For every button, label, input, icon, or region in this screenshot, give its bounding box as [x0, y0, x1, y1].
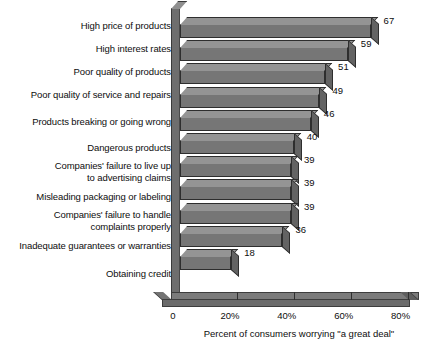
x-axis-tick	[351, 292, 352, 300]
plot-area: 6759514946403939393618 020%40%60%80% Per…	[171, 8, 427, 300]
bar-top-face	[180, 17, 378, 25]
bar-chart: High price of products High interest rat…	[0, 0, 439, 344]
category-label: High price of products	[81, 20, 171, 32]
bar-value-label: 51	[338, 61, 349, 72]
x-axis-tick	[294, 292, 295, 300]
x-axis-tick-label: 20%	[220, 310, 239, 321]
category-label: High interest rates	[96, 43, 171, 55]
bar-end-cap	[348, 40, 356, 68]
bar	[180, 110, 311, 124]
bar	[180, 87, 319, 101]
bar-value-label: 40	[307, 131, 318, 142]
x-axis-tick	[237, 292, 238, 300]
bar-front-face	[180, 24, 371, 38]
bar	[180, 249, 231, 263]
category-label: Inadequate guarantees or warranties	[19, 240, 171, 252]
bar-top-face	[180, 40, 355, 48]
x-axis-tick	[408, 292, 409, 300]
bar-top-face	[180, 249, 238, 257]
bar-value-label: 59	[361, 38, 372, 49]
bar-value-label: 39	[304, 154, 315, 165]
bar	[180, 179, 291, 193]
bar-front-face	[180, 256, 231, 270]
x-axis-tick-label: 0	[170, 310, 175, 321]
bar	[180, 226, 282, 240]
bar-top-face	[180, 226, 290, 234]
floor-front	[162, 299, 410, 307]
bar-value-label: 18	[244, 247, 255, 258]
x-axis-tick-label: 60%	[334, 310, 353, 321]
bar-front-face	[180, 47, 348, 61]
x-axis-tick-label: 40%	[277, 310, 296, 321]
bar-value-label: 49	[332, 85, 343, 96]
x-axis-title: Percent of consumers worrying "a great d…	[171, 328, 427, 339]
category-label: Misleading packaging or labeling	[36, 191, 171, 203]
bar-end-cap	[282, 226, 290, 254]
bar-front-face	[180, 233, 282, 247]
bar	[180, 203, 291, 217]
category-label: Companies' failure to handle complaints …	[54, 209, 171, 232]
axis-wall-top	[171, 1, 187, 9]
category-label: Obtaining credit	[106, 268, 171, 280]
bar-top-face	[180, 133, 301, 141]
bar-front-face	[180, 94, 319, 108]
bar-value-label: 46	[324, 108, 335, 119]
category-label: Companies' failure to live up to adverti…	[55, 160, 171, 183]
bar-end-cap	[371, 17, 379, 45]
bar-front-face	[180, 163, 291, 177]
bar	[180, 156, 291, 170]
bar-front-face	[180, 117, 311, 131]
category-label: Poor quality of service and repairs	[31, 89, 171, 101]
bar-top-face	[180, 87, 327, 95]
bar	[180, 40, 348, 54]
axis-wall	[171, 8, 180, 292]
bar	[180, 63, 325, 77]
bar-top-face	[180, 156, 298, 164]
bar	[180, 17, 371, 31]
bar-front-face	[180, 210, 291, 224]
bar-end-cap	[231, 249, 239, 277]
category-label: Dangerous products	[87, 142, 171, 154]
category-label: Poor quality of products	[74, 66, 171, 78]
bar-front-face	[180, 140, 294, 154]
bar-front-face	[180, 186, 291, 200]
bar-front-face	[180, 70, 325, 84]
bar-value-label: 39	[304, 201, 315, 212]
category-label: Products breaking or going wrong	[32, 116, 171, 128]
bar-top-face	[180, 179, 298, 187]
bar-value-label: 67	[384, 15, 395, 26]
bar-top-face	[180, 63, 332, 71]
x-axis-tick-label: 80%	[391, 310, 410, 321]
bar-top-face	[180, 110, 318, 118]
bar-value-label: 36	[295, 224, 306, 235]
bar-value-label: 39	[304, 177, 315, 188]
bar	[180, 133, 294, 147]
bar-top-face	[180, 203, 298, 211]
